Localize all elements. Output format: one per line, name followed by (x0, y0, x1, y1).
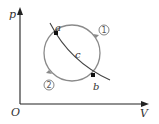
point-a-label: a (55, 22, 61, 33)
pv-diagram: p V O a b c 1 2 (0, 0, 159, 124)
v-axis-label: V (140, 107, 149, 120)
process-1-label: 1 (101, 26, 106, 35)
point-b-marker (91, 73, 95, 77)
curve-c-label: c (75, 49, 81, 60)
point-b-label: b (93, 81, 99, 92)
origin-label: O (11, 106, 20, 119)
p-axis-label: p (9, 8, 16, 21)
p-axis-arrow-icon (17, 7, 23, 15)
process-2-label: 2 (46, 81, 51, 90)
cycle-circle (44, 25, 100, 81)
